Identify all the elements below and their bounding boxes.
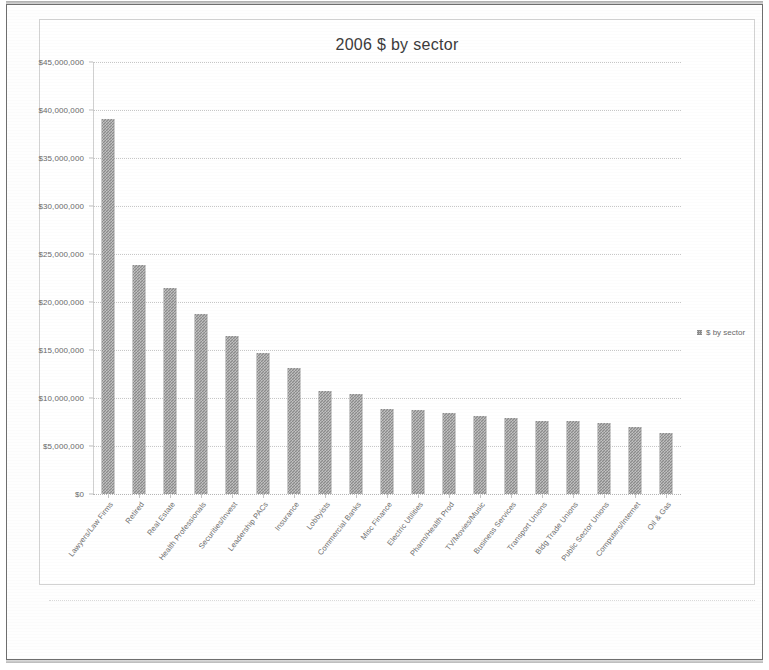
bar[interactable] bbox=[659, 433, 672, 494]
bar-slot: Commercial Banks bbox=[341, 62, 372, 494]
bar[interactable] bbox=[504, 418, 517, 494]
y-tick-label: $25,000,000 bbox=[38, 250, 84, 259]
bar-slot: Computers/Internet bbox=[619, 62, 650, 494]
x-tick-label: Lobbyists bbox=[305, 500, 332, 532]
x-tick-label: Real Estate bbox=[146, 500, 178, 537]
bar-slot: Securities/Invest bbox=[217, 62, 248, 494]
bar[interactable] bbox=[257, 353, 270, 494]
x-tick-mark bbox=[108, 494, 109, 498]
bar[interactable] bbox=[535, 421, 548, 494]
x-tick-mark bbox=[666, 494, 667, 498]
x-tick-mark bbox=[170, 494, 171, 498]
y-tick-label: $20,000,000 bbox=[38, 298, 84, 307]
bar-slot: Electric Utilities bbox=[402, 62, 433, 494]
x-tick-mark bbox=[325, 494, 326, 498]
bar[interactable] bbox=[226, 336, 239, 494]
x-tick-mark bbox=[418, 494, 419, 498]
x-tick-mark bbox=[449, 494, 450, 498]
bar-slot: Insurance bbox=[279, 62, 310, 494]
x-tick-label: Oil & Gas bbox=[645, 500, 673, 532]
bar-slot: Leadership PACs bbox=[248, 62, 279, 494]
bar[interactable] bbox=[133, 265, 146, 494]
bar-slot: Business Services bbox=[495, 62, 526, 494]
bar[interactable] bbox=[442, 413, 455, 494]
y-tick-label: $30,000,000 bbox=[38, 202, 84, 211]
bar[interactable] bbox=[380, 409, 393, 494]
bar-series: Lawyers/Law FirmsRetiredReal EstateHealt… bbox=[93, 62, 681, 494]
x-tick-mark bbox=[604, 494, 605, 498]
bar-slot: Bldg Trade Unions bbox=[557, 62, 588, 494]
bar-slot: Lawyers/Law Firms bbox=[93, 62, 124, 494]
bar-slot: Transport Unions bbox=[526, 62, 557, 494]
bar-slot: Retired bbox=[124, 62, 155, 494]
legend-swatch-icon bbox=[697, 330, 702, 335]
chart-title: 2006 $ by sector bbox=[40, 36, 754, 54]
bar-slot: Oil & Gas bbox=[650, 62, 681, 494]
x-tick-mark bbox=[356, 494, 357, 498]
x-tick-mark bbox=[387, 494, 388, 498]
bar-slot: Lobbyists bbox=[310, 62, 341, 494]
chart-container: 2006 $ by sector $0$5,000,000$10,000,000… bbox=[39, 19, 755, 585]
bar[interactable] bbox=[319, 391, 332, 494]
bar[interactable] bbox=[350, 394, 363, 494]
x-tick-mark bbox=[511, 494, 512, 498]
x-tick-mark bbox=[635, 494, 636, 498]
x-tick-mark bbox=[294, 494, 295, 498]
x-tick-label: Retired bbox=[124, 500, 147, 525]
x-tick-mark bbox=[201, 494, 202, 498]
y-tick-label: $15,000,000 bbox=[38, 346, 84, 355]
plot-area: $0$5,000,000$10,000,000$15,000,000$20,00… bbox=[93, 62, 681, 494]
bar[interactable] bbox=[195, 314, 208, 494]
x-tick-mark bbox=[263, 494, 264, 498]
y-tick-label: $10,000,000 bbox=[38, 394, 84, 403]
x-tick-label: Insurance bbox=[273, 500, 301, 533]
x-tick-mark bbox=[542, 494, 543, 498]
bar-slot: Pharm/Health Prod bbox=[433, 62, 464, 494]
bar[interactable] bbox=[411, 410, 424, 494]
bar-slot: Public Sector Unions bbox=[588, 62, 619, 494]
bar[interactable] bbox=[102, 119, 115, 494]
y-tick-label: $45,000,000 bbox=[38, 58, 84, 67]
chart-legend: $ by sector bbox=[697, 328, 745, 337]
bar[interactable] bbox=[288, 368, 301, 494]
x-tick-mark bbox=[139, 494, 140, 498]
legend-label: $ by sector bbox=[706, 328, 745, 337]
bar-slot: Real Estate bbox=[155, 62, 186, 494]
bar[interactable] bbox=[164, 288, 177, 494]
x-tick-label: Lawyers/Law Firms bbox=[67, 500, 115, 558]
bar[interactable] bbox=[597, 423, 610, 494]
y-tick-label: $35,000,000 bbox=[38, 154, 84, 163]
scanned-page-frame: 2006 $ by sector $0$5,000,000$10,000,000… bbox=[6, 4, 763, 660]
bar[interactable] bbox=[566, 421, 579, 494]
bar-slot: Health Professionals bbox=[186, 62, 217, 494]
bar[interactable] bbox=[628, 427, 641, 494]
y-tick-label: $0 bbox=[75, 490, 84, 499]
bar-slot: TV/Movies/Music bbox=[464, 62, 495, 494]
bar[interactable] bbox=[473, 416, 486, 494]
y-tick-label: $5,000,000 bbox=[43, 442, 84, 451]
y-tick-label: $40,000,000 bbox=[38, 106, 84, 115]
x-tick-mark bbox=[480, 494, 481, 498]
bar-slot: Misc Finance bbox=[372, 62, 403, 494]
x-tick-mark bbox=[232, 494, 233, 498]
page-separator-line bbox=[49, 600, 755, 601]
x-tick-mark bbox=[573, 494, 574, 498]
